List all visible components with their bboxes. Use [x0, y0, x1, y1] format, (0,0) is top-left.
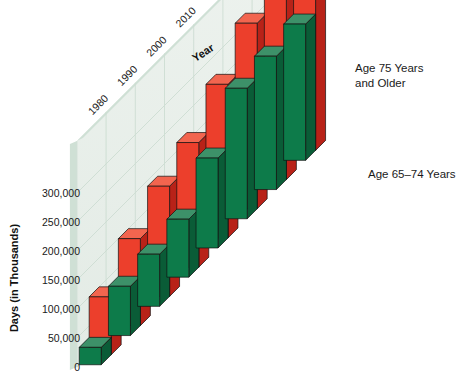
legend-label-age-65-74: Age 65–74 Years — [368, 168, 456, 180]
y-axis-tick-label: 50,000 — [48, 332, 80, 344]
legend-label-age-75-line1: Age 75 Years — [355, 62, 424, 74]
legend-label-age-75-line2: and Older — [355, 77, 406, 89]
bar-age-65-74 — [196, 148, 228, 248]
bar-age-65-74 — [108, 276, 140, 335]
bar-age-65-74 — [167, 209, 199, 277]
bar-age-65-74 — [225, 78, 257, 219]
chart-container: 050,000100,000150,000200,000250,000300,0… — [0, 0, 456, 388]
bar-age-65-74 — [138, 244, 170, 306]
y-axis-title: Days (in Thousands) — [8, 224, 20, 333]
y-axis-tick-label: 150,000 — [42, 274, 80, 286]
y-axis-tick-label: 200,000 — [42, 245, 80, 257]
y-axis-tick-label: 100,000 — [42, 303, 80, 315]
y-axis-tick-label: 0 — [74, 361, 80, 373]
y-axis-tick-label: 300,000 — [42, 187, 80, 199]
bar-age-65-74 — [284, 14, 316, 160]
bar-chart-3d: 050,000100,000150,000200,000250,000300,0… — [0, 0, 456, 388]
y-axis-tick-label: 250,000 — [42, 216, 80, 228]
bar-age-65-74 — [254, 46, 286, 189]
